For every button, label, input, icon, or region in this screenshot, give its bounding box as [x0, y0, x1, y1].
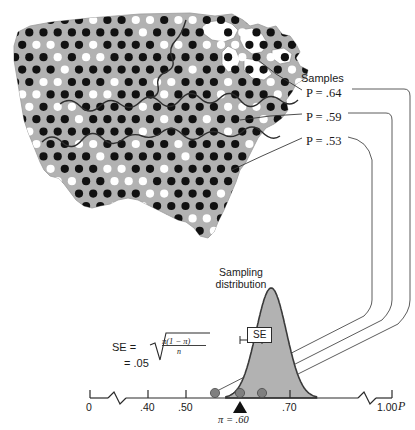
- map-dot-black: [25, 78, 33, 86]
- map-dot-black: [203, 190, 211, 198]
- map-dot-black: [245, 41, 253, 49]
- map-dot-black: [245, 66, 253, 74]
- map-dot-white: [18, 16, 26, 24]
- map-dot-white: [54, 227, 62, 235]
- map-dot-black: [252, 78, 260, 86]
- map-dot-black: [210, 53, 218, 61]
- map-dot-black: [274, 16, 282, 24]
- map-dot-black: [118, 16, 126, 24]
- map-dot-black: [47, 66, 55, 74]
- map-dot-black: [189, 239, 197, 247]
- map-dot-black: [103, 115, 111, 123]
- map-dot-black: [11, 53, 19, 61]
- map-dot-white: [96, 53, 104, 61]
- map-dot-black: [238, 227, 246, 235]
- map-dot-black: [110, 252, 118, 260]
- map-dot-black: [25, 227, 33, 235]
- map-dot-black: [39, 53, 47, 61]
- map-dot-white: [139, 103, 147, 111]
- map-dot-white: [231, 41, 239, 49]
- map-dot-black: [32, 165, 40, 173]
- map-dot-black: [288, 190, 296, 198]
- tick-label-100: 1.00: [377, 401, 397, 413]
- map-dot-black: [61, 239, 69, 247]
- map-dot-black: [132, 165, 140, 173]
- map-dot-white: [323, 177, 331, 185]
- map-dot-white: [238, 53, 246, 61]
- map-dot-black: [302, 239, 310, 247]
- map-dot-black: [196, 128, 204, 136]
- map-dot-black: [281, 152, 289, 160]
- map-dot-black: [288, 239, 296, 247]
- map-dot-black: [125, 28, 133, 36]
- map-dot-white: [25, 128, 33, 136]
- distribution-title-line1: Sampling: [205, 267, 277, 279]
- map-dot-black: [238, 202, 246, 210]
- map-dot-black: [203, 140, 211, 148]
- map-dot-white: [217, 41, 225, 49]
- map-dot-black: [61, 115, 69, 123]
- map-dot-black: [302, 16, 310, 24]
- map-dot-black: [110, 227, 118, 235]
- map-dot-black: [47, 115, 55, 123]
- se-box-label: SE: [247, 327, 272, 343]
- map-dot-white: [4, 239, 12, 247]
- map-dot-white: [181, 152, 189, 160]
- map-dot-white: [323, 227, 331, 235]
- map-dot-white: [160, 165, 168, 173]
- map-dot-black: [82, 202, 90, 210]
- map-dot-black: [274, 214, 282, 222]
- map-dot-black: [252, 28, 260, 36]
- map-dot-white: [267, 53, 275, 61]
- map-dot-white: [174, 140, 182, 148]
- map-dot-white: [132, 140, 140, 148]
- map-dot-black: [316, 239, 324, 247]
- map-dot-black: [252, 152, 260, 160]
- map-dot-white: [160, 90, 168, 98]
- map-dot-black: [167, 252, 175, 260]
- map-dot-black: [274, 165, 282, 173]
- map-dot-white: [39, 78, 47, 86]
- map-dot-white: [54, 53, 62, 61]
- map-dot-white: [210, 28, 218, 36]
- map-dot-black: [110, 28, 118, 36]
- map-dot-white: [203, 115, 211, 123]
- map-dot-black: [160, 140, 168, 148]
- map-dot-white: [68, 177, 76, 185]
- map-dot-black: [174, 214, 182, 222]
- map-dot-black: [210, 202, 218, 210]
- map-dot-black: [245, 90, 253, 98]
- map-dot-white: [118, 165, 126, 173]
- map-dot-black: [11, 252, 19, 260]
- tick-label-0: 0: [86, 401, 92, 413]
- pi-marker-label: π = .60: [218, 414, 249, 425]
- map-dot-black: [110, 128, 118, 136]
- map-dot-white: [338, 152, 346, 160]
- map-dot-black: [61, 41, 69, 49]
- map-dot-black: [295, 28, 303, 36]
- map-dot-black: [153, 227, 161, 235]
- map-dot-black: [75, 66, 83, 74]
- map-dot-black: [54, 28, 62, 36]
- map-dot-black: [25, 152, 33, 160]
- map-dot-black: [217, 66, 225, 74]
- map-dot-black: [11, 177, 19, 185]
- map-dot-black: [146, 41, 154, 49]
- map-dot-black: [217, 239, 225, 247]
- map-dot-black: [89, 66, 97, 74]
- map-dot-black: [260, 239, 268, 247]
- map-dot-white: [146, 239, 154, 247]
- map-dot-black: [160, 16, 168, 24]
- map-dot-black: [189, 190, 197, 198]
- map-dot-black: [118, 90, 126, 98]
- map-dot-white: [39, 202, 47, 210]
- map-dot-black: [89, 190, 97, 198]
- map-dot-white: [47, 41, 55, 49]
- map-dot-black: [210, 78, 218, 86]
- united-states-map: [4, 13, 346, 260]
- map-dot-white: [238, 28, 246, 36]
- map-dot-black: [96, 227, 104, 235]
- x-axis-variable-label: P: [398, 399, 405, 414]
- map-dot-white: [118, 239, 126, 247]
- map-dot-white: [189, 66, 197, 74]
